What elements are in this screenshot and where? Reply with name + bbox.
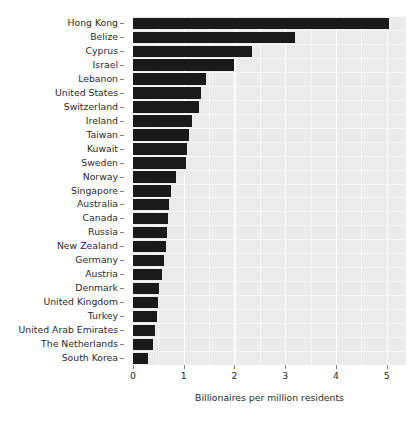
y-axis-tick — [120, 51, 124, 52]
y-axis-label: United Kingdom — [43, 295, 118, 310]
bar — [133, 213, 168, 224]
bar — [133, 353, 148, 364]
bar — [133, 283, 159, 294]
bar — [133, 255, 164, 266]
bar-row — [133, 323, 406, 338]
y-axis-label: Singapore — [71, 184, 118, 199]
bar — [133, 269, 162, 280]
y-axis-label: Turkey — [88, 309, 118, 324]
y-axis-tick — [120, 121, 124, 122]
bar-row — [133, 114, 406, 129]
y-axis-tick — [120, 232, 124, 233]
x-axis-tick — [234, 365, 235, 369]
bar-row — [133, 225, 406, 240]
x-axis-tick — [336, 365, 337, 369]
bar-row — [133, 156, 406, 171]
y-axis-label: Israel — [93, 58, 118, 73]
bar-row — [133, 309, 406, 324]
y-axis-label: The Netherlands — [41, 337, 118, 352]
bar — [133, 59, 234, 70]
x-axis-tick — [184, 365, 185, 369]
x-axis-tick — [285, 365, 286, 369]
bar — [133, 325, 155, 336]
y-axis-tick — [120, 163, 124, 164]
y-axis-label: Belize — [90, 30, 118, 45]
bar-row — [133, 100, 406, 115]
bar-row — [133, 30, 406, 45]
y-axis: Hong KongBelizeCyprusIsraelLebanonUnited… — [0, 16, 126, 365]
bar — [133, 311, 157, 322]
y-axis-label: Lebanon — [78, 72, 118, 87]
y-axis-label: South Korea — [62, 351, 118, 366]
plot-area — [133, 16, 406, 365]
bar — [133, 87, 201, 98]
y-axis-label: Canada — [83, 211, 118, 226]
y-axis-tick — [120, 288, 124, 289]
y-axis-tick — [120, 204, 124, 205]
y-axis-label: United States — [55, 86, 118, 101]
bar — [133, 46, 252, 57]
y-axis-label: Kuwait — [87, 142, 118, 157]
y-axis-tick — [120, 37, 124, 38]
y-axis-tick — [120, 135, 124, 136]
y-axis-tick — [120, 79, 124, 80]
y-axis-tick — [120, 107, 124, 108]
bar-row — [133, 58, 406, 73]
bar-row — [133, 267, 406, 282]
bar-row — [133, 184, 406, 199]
bar — [133, 73, 206, 84]
chart-title — [0, 0, 417, 1]
bar-row — [133, 142, 406, 157]
bar-row — [133, 86, 406, 101]
y-axis-label: New Zealand — [57, 239, 118, 254]
x-axis-tick — [387, 365, 388, 369]
y-axis-tick — [120, 218, 124, 219]
bar — [133, 185, 171, 196]
y-axis-label: Cyprus — [86, 44, 118, 59]
bar — [133, 157, 186, 168]
y-axis-tick — [120, 93, 124, 94]
y-axis-tick — [120, 316, 124, 317]
y-axis-label: Russia — [88, 225, 118, 240]
x-axis-tick-label: 4 — [333, 370, 339, 381]
y-axis-label: Ireland — [86, 114, 118, 129]
x-axis-tick-label: 2 — [232, 370, 238, 381]
bar — [133, 18, 389, 29]
bar-row — [133, 281, 406, 296]
y-axis-label: Austria — [85, 267, 118, 282]
bar — [133, 115, 192, 126]
bar-row — [133, 337, 406, 352]
y-axis-tick — [120, 23, 124, 24]
bar — [133, 199, 169, 210]
bar-row — [133, 44, 406, 59]
bar-row — [133, 197, 406, 212]
y-axis-label: Sweden — [81, 156, 118, 171]
y-axis-label: Taiwan — [86, 128, 118, 143]
y-axis-tick — [120, 302, 124, 303]
y-axis-tick — [120, 65, 124, 66]
x-axis-title: Billionaires per million residents — [133, 392, 406, 403]
bar-row — [133, 16, 406, 31]
bar — [133, 227, 167, 238]
bar-row — [133, 253, 406, 268]
y-axis-tick — [120, 246, 124, 247]
bar — [133, 32, 295, 43]
bar-row — [133, 211, 406, 226]
y-axis-tick — [120, 177, 124, 178]
bar-row — [133, 351, 406, 365]
y-axis-label: Germany — [75, 253, 118, 268]
bar-row — [133, 239, 406, 254]
bar — [133, 129, 189, 140]
bar-chart: Hong KongBelizeCyprusIsraelLebanonUnited… — [0, 0, 417, 432]
bar-row — [133, 72, 406, 87]
x-axis-tick-label: 5 — [384, 370, 390, 381]
x-axis-tick-label: 1 — [181, 370, 187, 381]
y-axis-tick — [120, 344, 124, 345]
x-axis-tick-label: 3 — [282, 370, 288, 381]
y-axis-label: Australia — [77, 197, 118, 212]
y-axis-tick — [120, 358, 124, 359]
y-axis-label: United Arab Emirates — [19, 323, 118, 338]
bar — [133, 297, 158, 308]
bar — [133, 339, 153, 350]
bar — [133, 171, 176, 182]
